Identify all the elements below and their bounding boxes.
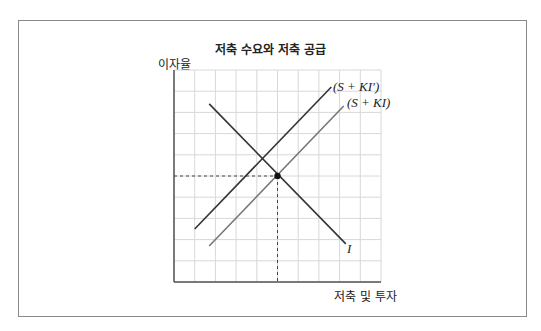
label-i: I [346, 241, 352, 256]
curve-labels: (S + KI′)(S + KI)I [333, 79, 390, 256]
label-s-plus-ki-prime: (S + KI′) [333, 79, 379, 94]
curves [195, 87, 346, 246]
label-s-plus-ki: (S + KI) [347, 95, 390, 110]
equilibrium-point [274, 173, 280, 179]
plot-area: (S + KI′)(S + KI)I [0, 0, 541, 331]
